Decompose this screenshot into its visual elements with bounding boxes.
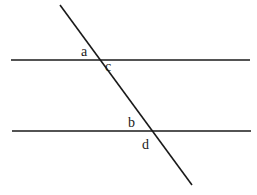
angle-label-c: c [105,59,111,74]
parallel-lines-diagram: a c b d [0,0,257,195]
angle-label-b: b [128,115,135,130]
angle-label-d: d [142,137,149,152]
transversal-line [60,5,192,185]
angle-label-a: a [81,44,88,59]
